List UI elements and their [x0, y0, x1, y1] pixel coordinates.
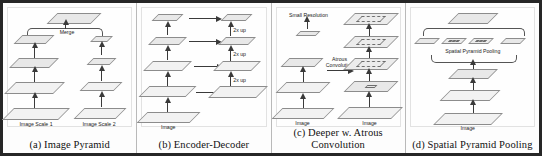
- encoder-level2: [144, 86, 191, 97]
- scale2-label: Image Scale 2: [72, 121, 126, 127]
- panels-row: Merge Image Scale 1 Image Scale 2 (a) Im…: [3, 3, 539, 153]
- decoder-arrow-2: [230, 50, 231, 61]
- spp-arrow-2: [473, 82, 474, 90]
- spp-bin-4: [503, 38, 523, 44]
- caption-panel-a: (a) Image Pyramid: [3, 139, 136, 151]
- caption-panel-b: (b) Encoder-Decoder: [137, 139, 270, 151]
- right-arrow-3: [369, 51, 370, 58]
- scale2-level3: [90, 58, 113, 65]
- panel-c-stage: Small Resolution Image Atrous Convolutio…: [276, 7, 401, 127]
- encoder-input-image: [142, 112, 195, 123]
- encoder-level4: [152, 37, 183, 45]
- decoder-output: [214, 86, 262, 98]
- decoder-level3: [222, 37, 252, 45]
- decoder-up-label-1: 2x up: [233, 77, 257, 83]
- decoder-up-label-2: 2x up: [233, 51, 257, 57]
- panel-a-stage: Merge Image Scale 1 Image Scale 2: [7, 7, 132, 127]
- encoder-arrow-3: [167, 50, 168, 60]
- scale1-arrow-2: [34, 71, 35, 82]
- encoder-arrow-2: [167, 76, 168, 86]
- caption-panel-d: (d) Spatial Pyramid Pooling: [406, 139, 539, 151]
- small-resolution-pointer: [307, 21, 308, 29]
- panel-b-stage: Image 2x up 2x up 2x up: [141, 7, 266, 127]
- encoder-image-label: Image: [145, 124, 191, 130]
- spp-bin-2: [444, 38, 464, 44]
- right-image-label: Image: [347, 120, 393, 126]
- scale1-arrow-3: [34, 47, 35, 58]
- spp-top-brace: [423, 28, 525, 36]
- scale1-label: Image Scale 1: [9, 121, 63, 127]
- panel-d-stage: Spatial Pyramid Pooling Image: [410, 7, 535, 127]
- atrous-arrow: [327, 70, 349, 71]
- figure-container: Merge Image Scale 1 Image Scale 2 (a) Im…: [0, 0, 542, 156]
- panel-spatial-pyramid-pooling: Spatial Pyramid Pooling Image (d) Spatia…: [406, 3, 539, 153]
- right-arrow-4: [369, 28, 370, 36]
- decoder-arrow-3: [230, 26, 231, 36]
- decoder-up-label-3: 2x up: [233, 27, 257, 33]
- scale2-arrow-2: [101, 70, 102, 81]
- pyramid-merged-output: [52, 13, 96, 24]
- decoder-arrow-1: [230, 76, 231, 86]
- decoder-level4: [224, 14, 249, 21]
- spp-bin-1: [417, 38, 437, 44]
- caption-panel-c: (c) Deeper w. Atrous Convolution: [272, 127, 405, 151]
- right-input-image: [343, 107, 397, 119]
- small-resolution-feature: [298, 31, 318, 36]
- panel-encoder-decoder: Image 2x up 2x up 2x up (b) Encoder-Deco…: [137, 3, 271, 153]
- decoder-level2: [218, 61, 256, 71]
- right-arrow-1: [369, 96, 370, 107]
- scale1-input-image: [8, 108, 64, 120]
- encoder-level5: [155, 14, 180, 21]
- encoder-level3: [148, 61, 187, 71]
- skip-arrow-4: [189, 18, 217, 19]
- left-level2: [281, 82, 325, 93]
- skip-arrow-3: [189, 41, 217, 42]
- left-arrow-1: [303, 98, 304, 108]
- spp-bin-3: [471, 38, 491, 44]
- spp-input-image: [439, 113, 497, 125]
- skip-arrow-2: [194, 66, 218, 67]
- scale2-input-image: [79, 108, 121, 119]
- right-arrow-2: [369, 73, 370, 81]
- spp-label: Spatial Pyramid Pooling: [423, 48, 523, 54]
- scale2-level2: [84, 82, 118, 91]
- panel-deeper-atrous: Small Resolution Image Atrous Convolutio…: [272, 3, 406, 153]
- scale2-arrow-1: [101, 96, 102, 107]
- left-image-label: Image: [280, 120, 326, 126]
- encoder-arrow-4: [167, 26, 168, 35]
- panel-image-pyramid: Merge Image Scale 1 Image Scale 2 (a) Im…: [3, 3, 137, 153]
- left-arrow-2: [303, 71, 304, 82]
- spp-output: [453, 13, 493, 24]
- scale1-arrow-1: [34, 97, 35, 108]
- encoder-arrow-1: [167, 102, 168, 112]
- left-input-image: [277, 108, 329, 119]
- scale2-arrow-3: [101, 46, 102, 55]
- spp-image-label: Image: [445, 125, 491, 131]
